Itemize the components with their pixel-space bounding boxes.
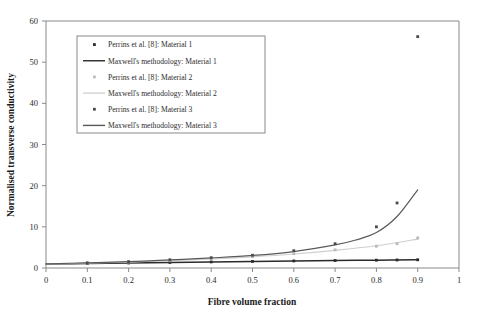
legend-box (77, 36, 265, 133)
series-marker (375, 245, 378, 248)
series-marker (396, 242, 399, 245)
series-marker (375, 225, 378, 228)
chart-legend: Perrins et al. [8]: Material 1Maxwell's … (77, 36, 265, 133)
y-tick-label: 60 (30, 16, 39, 26)
y-tick-label: 0 (34, 263, 38, 273)
chart-figure: 00.10.20.30.40.50.60.70.80.9101020304050… (0, 0, 477, 315)
y-tick-label: 20 (30, 181, 39, 191)
series-marker (292, 249, 295, 252)
legend-item: Perrins et al. [8]: Material 1 (93, 40, 193, 49)
x-tick-label: 0.1 (82, 275, 93, 285)
legend-marker-swatch (93, 76, 96, 79)
series-marker (416, 237, 419, 240)
x-tick-label: 0.2 (123, 275, 134, 285)
x-tick-label: 0.5 (247, 275, 258, 285)
x-tick-label: 0 (44, 275, 48, 285)
series-marker (210, 261, 213, 264)
x-tick-label: 0.6 (288, 275, 299, 285)
series-marker (416, 258, 419, 261)
legend-label: Perrins et al. [8]: Material 3 (108, 105, 193, 114)
series-marker (292, 252, 295, 255)
x-axis-title: Fibre volume fraction (208, 297, 297, 307)
legend-label: Perrins et al. [8]: Material 2 (108, 73, 193, 82)
legend-label: Maxwell's methodology: Material 1 (108, 57, 217, 66)
legend-label: Perrins et al. [8]: Material 1 (108, 40, 193, 49)
x-tick-label: 1 (457, 275, 461, 285)
legend-item: Perrins et al. [8]: Material 2 (93, 73, 193, 82)
series-marker (334, 259, 337, 262)
legend-marker-swatch (93, 108, 96, 111)
y-tick-label: 50 (30, 57, 39, 67)
series-marker (169, 258, 172, 261)
series-marker (210, 256, 213, 259)
x-tick-label: 0.8 (371, 275, 382, 285)
series-marker (334, 248, 337, 251)
series-marker (251, 260, 254, 263)
series-marker (127, 260, 130, 263)
x-tick-label: 0.9 (412, 275, 423, 285)
legend-item: Perrins et al. [8]: Material 3 (93, 105, 193, 114)
y-tick-label: 30 (30, 140, 39, 150)
y-tick-label: 10 (30, 222, 39, 232)
x-tick-label: 0.7 (330, 275, 341, 285)
transverse-conductivity-chart: 00.10.20.30.40.50.60.70.80.9101020304050… (0, 0, 477, 315)
legend-label: Maxwell's methodology: Material 2 (108, 89, 217, 98)
x-tick-label: 0.3 (165, 275, 176, 285)
series-marker (86, 261, 89, 264)
y-tick-label: 40 (30, 98, 39, 108)
series-marker (396, 259, 399, 262)
series-marker (334, 242, 337, 245)
series-marker (396, 202, 399, 205)
series-marker (375, 259, 378, 262)
y-axis-title: Normalised transverse conductivity (6, 73, 16, 217)
legend-marker-swatch (93, 43, 96, 46)
x-tick-label: 0.4 (206, 275, 217, 285)
series-marker (292, 260, 295, 263)
legend-label: Maxwell's methodology: Material 3 (108, 121, 217, 130)
series-marker (416, 35, 419, 38)
series-marker (251, 254, 254, 257)
